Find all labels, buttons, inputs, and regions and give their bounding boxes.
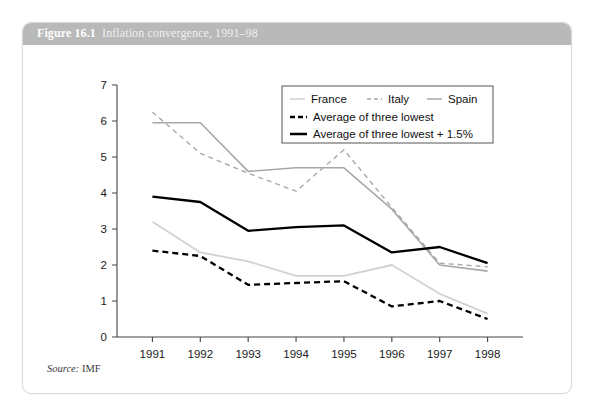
y-tick-label: 4 — [101, 187, 108, 199]
y-tick-label: 2 — [101, 259, 107, 271]
legend-label: Spain — [448, 93, 477, 105]
series-line-spain — [152, 123, 487, 271]
x-tick-label: 1998 — [475, 348, 501, 360]
source-value: IMF — [82, 363, 101, 374]
legend-label: Average of three lowest — [313, 111, 434, 123]
chart-legend: FranceItalySpainAverage of three lowestA… — [282, 86, 493, 143]
x-tick-label: 1991 — [140, 348, 166, 360]
series-line-france — [152, 222, 487, 314]
x-tick-label: 1997 — [427, 348, 453, 360]
figure-title: Figure 16.1 Inflation convergence, 1991–… — [37, 26, 258, 41]
line-chart: 0123456719911992199319941995199619971998… — [23, 45, 571, 393]
figure-header-band: Figure 16.1 Inflation convergence, 1991–… — [23, 23, 571, 45]
y-tick-label: 6 — [101, 115, 107, 127]
chart-area: 0123456719911992199319941995199619971998… — [23, 45, 571, 393]
y-tick-label: 1 — [101, 295, 107, 307]
figure-card: Figure 16.1 Inflation convergence, 1991–… — [22, 22, 572, 394]
legend-label: France — [311, 93, 347, 105]
x-tick-label: 1992 — [187, 348, 213, 360]
figure-caption: Inflation convergence, 1991–98 — [96, 26, 258, 40]
source-note: Source: IMF — [47, 363, 101, 374]
x-tick-label: 1996 — [379, 348, 405, 360]
series-line-average-of-three-lowest — [152, 251, 487, 319]
x-tick-label: 1995 — [331, 348, 357, 360]
y-tick-label: 7 — [101, 79, 107, 91]
x-tick-label: 1993 — [235, 348, 261, 360]
x-tick-label: 1994 — [283, 348, 309, 360]
legend-label: Italy — [388, 93, 409, 105]
legend-label: Average of three lowest + 1.5% — [313, 128, 473, 140]
y-tick-label: 3 — [101, 223, 107, 235]
y-tick-label: 5 — [101, 151, 107, 163]
y-tick-label: 0 — [101, 331, 107, 343]
source-label: Source: — [47, 363, 79, 374]
figure-number: Figure 16.1 — [37, 26, 96, 40]
